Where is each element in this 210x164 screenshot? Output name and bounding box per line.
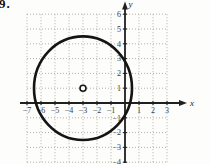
y-tick-label: −4 xyxy=(112,158,121,164)
y-tick-label: 1 xyxy=(117,84,121,93)
y-tick-label: 6 xyxy=(117,10,121,19)
y-tick-label: 4 xyxy=(117,40,121,49)
x-tick-label: −3 xyxy=(79,106,88,115)
x-tick-label: −2 xyxy=(93,106,102,115)
y-tick-label: 2 xyxy=(117,69,121,78)
x-tick-label: 2 xyxy=(151,106,155,115)
circle-center-marker xyxy=(80,85,86,91)
y-tick-label: 5 xyxy=(117,25,121,34)
x-tick-label: −7 xyxy=(23,106,32,115)
worksheet-page: 9. −7−6−5−4−3−2−1123−4−3−2−1123456xy xyxy=(0,0,210,164)
y-axis-label: y xyxy=(128,0,133,9)
y-tick-label: −3 xyxy=(112,143,121,152)
x-axis-arrow xyxy=(179,100,187,106)
x-tick-label: −5 xyxy=(51,106,60,115)
x-axis-label: x xyxy=(189,98,194,108)
y-axis-arrow xyxy=(122,2,128,10)
x-tick-label: −4 xyxy=(65,106,74,115)
coordinate-plane-figure: −7−6−5−4−3−2−1123−4−3−2−1123456xy xyxy=(0,0,210,164)
problem-number: 9. xyxy=(0,0,11,12)
x-tick-label: 1 xyxy=(137,106,141,115)
x-tick-label: 3 xyxy=(165,106,169,115)
